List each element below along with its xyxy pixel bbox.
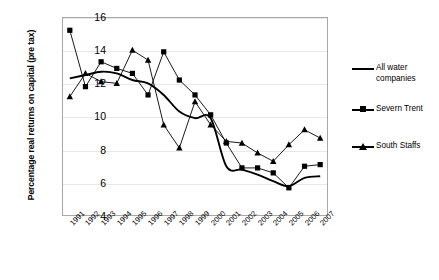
- data-point: [145, 57, 151, 63]
- data-point: [98, 78, 104, 84]
- legend-label: All water companies: [376, 63, 438, 84]
- triangle-marker-key-icon: [352, 141, 374, 152]
- data-point: [82, 70, 88, 76]
- data-point: [161, 121, 167, 127]
- square-marker-key-icon: [352, 104, 374, 115]
- legend-label: South Staffs: [376, 141, 420, 152]
- data-point: [192, 98, 198, 104]
- legend-item-south-staffs[interactable]: South Staffs: [352, 141, 420, 152]
- data-point: [271, 170, 276, 175]
- data-point: [318, 162, 323, 167]
- series-south-staffs: [67, 47, 324, 164]
- legend-item-severn-trent[interactable]: Severn Trent: [352, 104, 423, 115]
- data-point: [145, 92, 150, 97]
- data-point: [83, 84, 88, 89]
- data-point: [317, 135, 323, 141]
- data-point: [67, 28, 72, 33]
- data-point: [130, 71, 135, 76]
- data-point: [302, 164, 307, 169]
- data-point: [99, 59, 104, 64]
- legend-label: Severn Trent: [376, 104, 423, 115]
- data-point: [286, 185, 291, 190]
- series-layer: [0, 0, 439, 280]
- data-point: [129, 47, 135, 53]
- data-point: [177, 77, 182, 82]
- data-point: [239, 165, 244, 170]
- data-point: [255, 165, 260, 170]
- data-point: [176, 145, 182, 151]
- line-key-icon: [352, 63, 374, 74]
- series-severn-trent: [67, 28, 323, 191]
- data-point: [67, 93, 73, 99]
- data-point: [192, 92, 197, 97]
- data-point: [208, 112, 213, 117]
- data-point: [161, 49, 166, 54]
- legend-item-all-water-companies[interactable]: All water companies: [352, 63, 438, 84]
- series-all-water-companies: [70, 72, 320, 187]
- data-point: [301, 126, 307, 132]
- data-point: [114, 66, 119, 71]
- data-point: [254, 150, 260, 156]
- chart-container: Percentage real returns on capital (pre …: [0, 0, 439, 280]
